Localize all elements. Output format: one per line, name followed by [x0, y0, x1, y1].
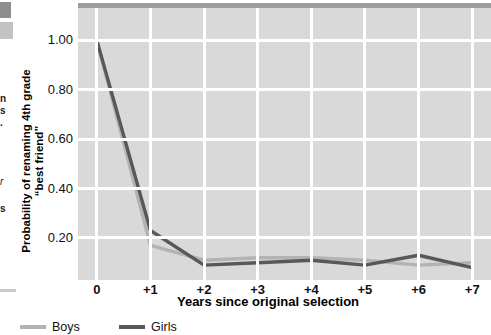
gridline-vertical — [95, 8, 98, 280]
gridline-vertical — [203, 8, 206, 280]
gridline-vertical — [417, 8, 420, 280]
legend-label-boys: Boys — [52, 320, 80, 334]
y-axis-title: Probability of renaming 4th grade “best … — [20, 66, 46, 256]
gridline-vertical — [310, 8, 313, 280]
legend-swatch-girls — [119, 325, 145, 329]
plot-area — [78, 8, 491, 280]
gridline-horizontal — [78, 187, 491, 190]
gridline-vertical — [256, 8, 259, 280]
y-axis-tick-label: 1.00 — [3, 32, 73, 47]
gridline-vertical — [471, 8, 474, 280]
gridline-horizontal — [78, 88, 491, 91]
gridline-horizontal — [78, 236, 491, 239]
legend-item-girls: Girls — [119, 317, 177, 333]
series-line-girls — [97, 40, 472, 267]
legend-item-boys: Boys — [20, 317, 80, 333]
x-axis-title: Years since original selection — [78, 294, 458, 309]
gridline-horizontal — [78, 138, 491, 141]
legend-label-girls: Girls — [151, 320, 177, 334]
x-axis-tick-label: +7 — [452, 282, 491, 297]
gridline-vertical — [149, 8, 152, 280]
gridline-horizontal — [78, 39, 491, 42]
legend-swatch-boys — [20, 325, 46, 329]
gridline-vertical — [363, 8, 366, 280]
